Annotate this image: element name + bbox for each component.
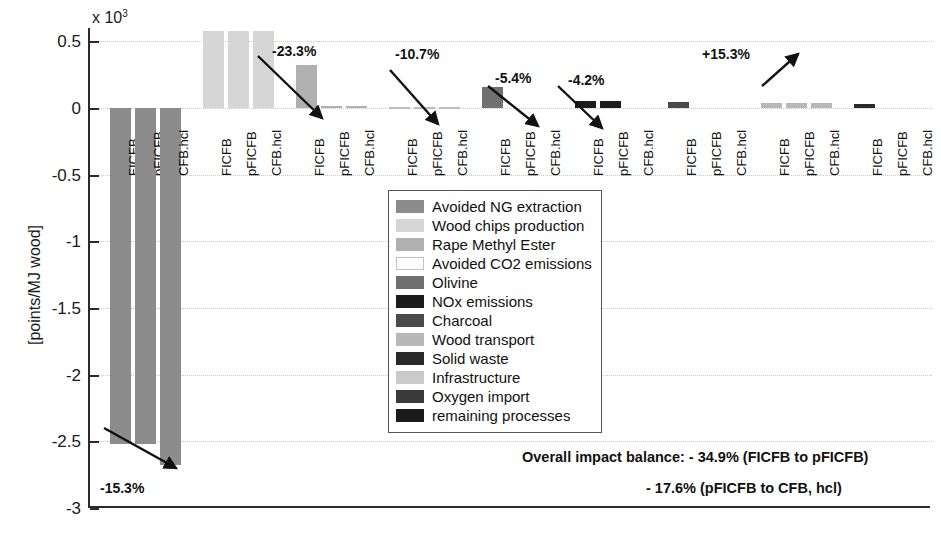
legend-swatch [396, 390, 424, 403]
overall-impact-balance-line1: Overall impact balance: - 34.9% (FICFB t… [522, 449, 868, 465]
legend-label: NOx emissions [432, 294, 533, 309]
y-axis-exponent-prefix: x 10 [92, 9, 122, 26]
legend-swatch [396, 352, 424, 365]
legend-swatch [396, 409, 424, 422]
legend-item: Avoided NG extraction [396, 197, 592, 216]
legend-item: Avoided CO2 emissions [396, 254, 592, 273]
legend-swatch [396, 238, 424, 251]
y-axis-tick-label: -3 [66, 500, 81, 517]
y-axis-exponent-label: x 103 [92, 8, 128, 27]
legend-item: remaining processes [396, 406, 592, 425]
legend-label: Wood chips production [432, 218, 584, 233]
legend-item: Charcoal [396, 311, 592, 330]
legend-swatch [396, 200, 424, 213]
y-axis-title: [points/MJ wood] [26, 225, 44, 345]
y-axis-tick-label: 0.5 [57, 33, 81, 50]
legend-swatch [396, 371, 424, 384]
legend: Avoided NG extractionWood chips producti… [388, 190, 602, 433]
legend-item: Wood transport [396, 330, 592, 349]
legend-item: Infrastructure [396, 368, 592, 387]
legend-label: Infrastructure [432, 370, 520, 385]
legend-item: Oxygen import [396, 387, 592, 406]
y-axis-tick-label: -1 [66, 233, 81, 250]
legend-label: Charcoal [432, 313, 492, 328]
y-axis-tick-label: 0 [72, 100, 81, 117]
legend-item: Rape Methyl Ester [396, 235, 592, 254]
legend-item: Solid waste [396, 349, 592, 368]
legend-swatch [396, 257, 424, 270]
legend-label: Avoided CO2 emissions [432, 256, 592, 271]
legend-swatch [396, 219, 424, 232]
legend-label: Oxygen import [432, 389, 530, 404]
legend-swatch [396, 333, 424, 346]
legend-item: Olivine [396, 273, 592, 292]
legend-label: Solid waste [432, 351, 509, 366]
y-axis-tick-label: -2 [66, 366, 81, 383]
legend-item: NOx emissions [396, 292, 592, 311]
y-axis-tick [90, 508, 99, 510]
y-axis-tick-label: -1.5 [52, 300, 81, 317]
legend-label: Wood transport [432, 332, 534, 347]
legend-label: Avoided NG extraction [432, 199, 582, 214]
y-axis-exponent-sup: 3 [122, 8, 128, 19]
legend-swatch [396, 295, 424, 308]
legend-swatch [396, 276, 424, 289]
y-axis-tick-label: -0.5 [52, 166, 81, 183]
legend-swatch [396, 314, 424, 327]
bar-chart: x 103 [points/MJ wood] 0.50-0.5-1-1.5-2-… [0, 0, 941, 537]
legend-label: Olivine [432, 275, 478, 290]
y-axis-tick-label: -2.5 [52, 433, 81, 450]
legend-label: Rape Methyl Ester [432, 237, 555, 252]
overall-impact-balance-line2: - 17.6% (pFICFB to CFB, hcl) [646, 480, 842, 496]
legend-item: Wood chips production [396, 216, 592, 235]
legend-label: remaining processes [432, 408, 570, 423]
